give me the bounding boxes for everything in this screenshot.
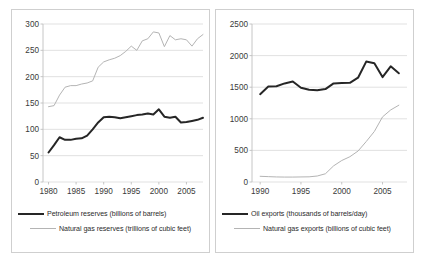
legend-item-natural-gas-reserves: Natural gas reserves (trillions of cubic… bbox=[12, 221, 205, 236]
legend-label-petroleum-reserves: Petroleum reserves (billions of barrels) bbox=[47, 210, 166, 218]
y-tick-label: 1500 bbox=[230, 83, 249, 92]
y-tick-label: 200 bbox=[25, 73, 39, 82]
y-tick-label: 0 bbox=[34, 178, 39, 187]
legend-swatch-light-line-icon bbox=[234, 228, 260, 229]
y-tick-label: 2500 bbox=[230, 20, 249, 29]
y-tick-label: 0 bbox=[243, 178, 248, 187]
reserves-plot-svg: 0501001502002503001980198519901995200020… bbox=[12, 10, 209, 204]
legend-swatch-dark-line-icon bbox=[18, 213, 44, 215]
legend-label-oil-exports: Oil exports (thousands of barrels/day) bbox=[251, 210, 367, 218]
x-tick-label: 1990 bbox=[95, 187, 114, 196]
y-tick-label: 250 bbox=[25, 46, 39, 55]
legend-swatch-dark-line-icon bbox=[222, 213, 248, 215]
reserves-plot-area: 0501001502002503001980198519901995200020… bbox=[12, 10, 209, 204]
x-tick-label: 2005 bbox=[373, 187, 392, 196]
y-tick-label: 500 bbox=[234, 146, 248, 155]
x-tick-label: 1995 bbox=[122, 187, 141, 196]
x-tick-label: 2005 bbox=[177, 187, 196, 196]
legend-label-natural-gas-exports: Natural gas exports (billions of cubic f… bbox=[263, 225, 391, 233]
series-line-dark bbox=[49, 109, 203, 152]
y-tick-label: 150 bbox=[25, 99, 39, 108]
series-line-light bbox=[260, 105, 399, 177]
series-line-light bbox=[49, 32, 203, 107]
y-tick-label: 100 bbox=[25, 125, 39, 134]
exports-chart-panel: 050010001500200025001990199520002005 Oil… bbox=[215, 9, 414, 253]
figure-container: 0501001502002503001980198519901995200020… bbox=[0, 0, 428, 271]
reserves-chart-panel: 0501001502002503001980198519901995200020… bbox=[11, 9, 210, 253]
x-tick-label: 1985 bbox=[67, 187, 86, 196]
x-tick-label: 2000 bbox=[150, 187, 169, 196]
legend-item-oil-exports: Oil exports (thousands of barrels/day) bbox=[216, 206, 409, 221]
legend-item-natural-gas-exports: Natural gas exports (billions of cubic f… bbox=[216, 221, 409, 236]
reserves-legend: Petroleum reserves (billions of barrels)… bbox=[12, 204, 209, 252]
x-tick-label: 1990 bbox=[251, 187, 270, 196]
x-tick-label: 1980 bbox=[39, 187, 58, 196]
y-tick-label: 50 bbox=[30, 152, 40, 161]
series-line-dark bbox=[260, 62, 399, 95]
exports-plot-area: 050010001500200025001990199520002005 bbox=[216, 10, 413, 204]
exports-legend: Oil exports (thousands of barrels/day) N… bbox=[216, 204, 413, 252]
y-tick-label: 300 bbox=[25, 20, 39, 29]
y-tick-label: 2000 bbox=[230, 52, 249, 61]
y-tick-label: 1000 bbox=[230, 115, 249, 124]
x-tick-label: 2000 bbox=[333, 187, 352, 196]
legend-label-natural-gas-reserves: Natural gas reserves (trillions of cubic… bbox=[59, 225, 191, 233]
x-tick-label: 1995 bbox=[292, 187, 311, 196]
exports-plot-svg: 050010001500200025001990199520002005 bbox=[216, 10, 413, 204]
legend-swatch-light-line-icon bbox=[30, 228, 56, 229]
legend-item-petroleum-reserves: Petroleum reserves (billions of barrels) bbox=[12, 206, 205, 221]
